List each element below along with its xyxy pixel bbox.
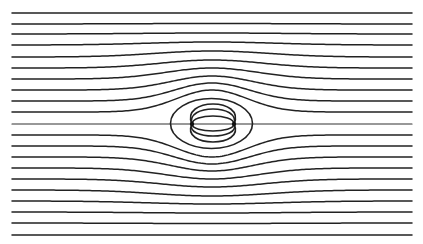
dipole-field-loop-upper (191, 104, 236, 124)
streamline-diagram (0, 0, 423, 244)
streamline (12, 168, 412, 179)
streamline (12, 42, 412, 45)
left-pole-icon (190, 122, 194, 126)
dipole-field-loop-upper (192, 116, 234, 124)
streamline (12, 33, 412, 34)
streamline (12, 201, 412, 204)
right-pole-icon (232, 122, 236, 126)
streamline (12, 60, 412, 68)
dipole-field-loop-lower (191, 124, 234, 136)
dipole-field-loop-lower (192, 124, 234, 131)
streamline (12, 51, 412, 57)
streamline (12, 68, 412, 79)
streamline (12, 190, 412, 196)
streamline (12, 212, 412, 213)
streamlines-group (12, 13, 412, 235)
streamline (12, 179, 412, 187)
